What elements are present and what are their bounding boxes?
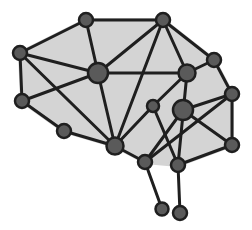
stem-right-end-node (173, 206, 187, 220)
stem-left-end-node (156, 203, 169, 216)
right-edge-node (225, 87, 239, 101)
bottom-right-node (225, 138, 239, 152)
right-inner-hub-node (173, 100, 193, 120)
center-hub-node (88, 63, 108, 83)
left-upper-node (13, 46, 27, 60)
brain-fill-shape (20, 20, 232, 165)
stem-right-node (171, 158, 185, 172)
upper-right-edge-node (207, 53, 221, 67)
inner-small-node (147, 100, 159, 112)
left-lower-node (15, 94, 29, 108)
brain-silhouette (20, 20, 232, 165)
bottom-hub-node (107, 138, 124, 155)
top-left-node (79, 13, 93, 27)
brain-network-diagram (0, 0, 252, 230)
right-hub-node (179, 65, 196, 82)
top-right-node (156, 13, 170, 27)
bottom-left-node (57, 124, 71, 138)
stem-left-node (138, 155, 152, 169)
